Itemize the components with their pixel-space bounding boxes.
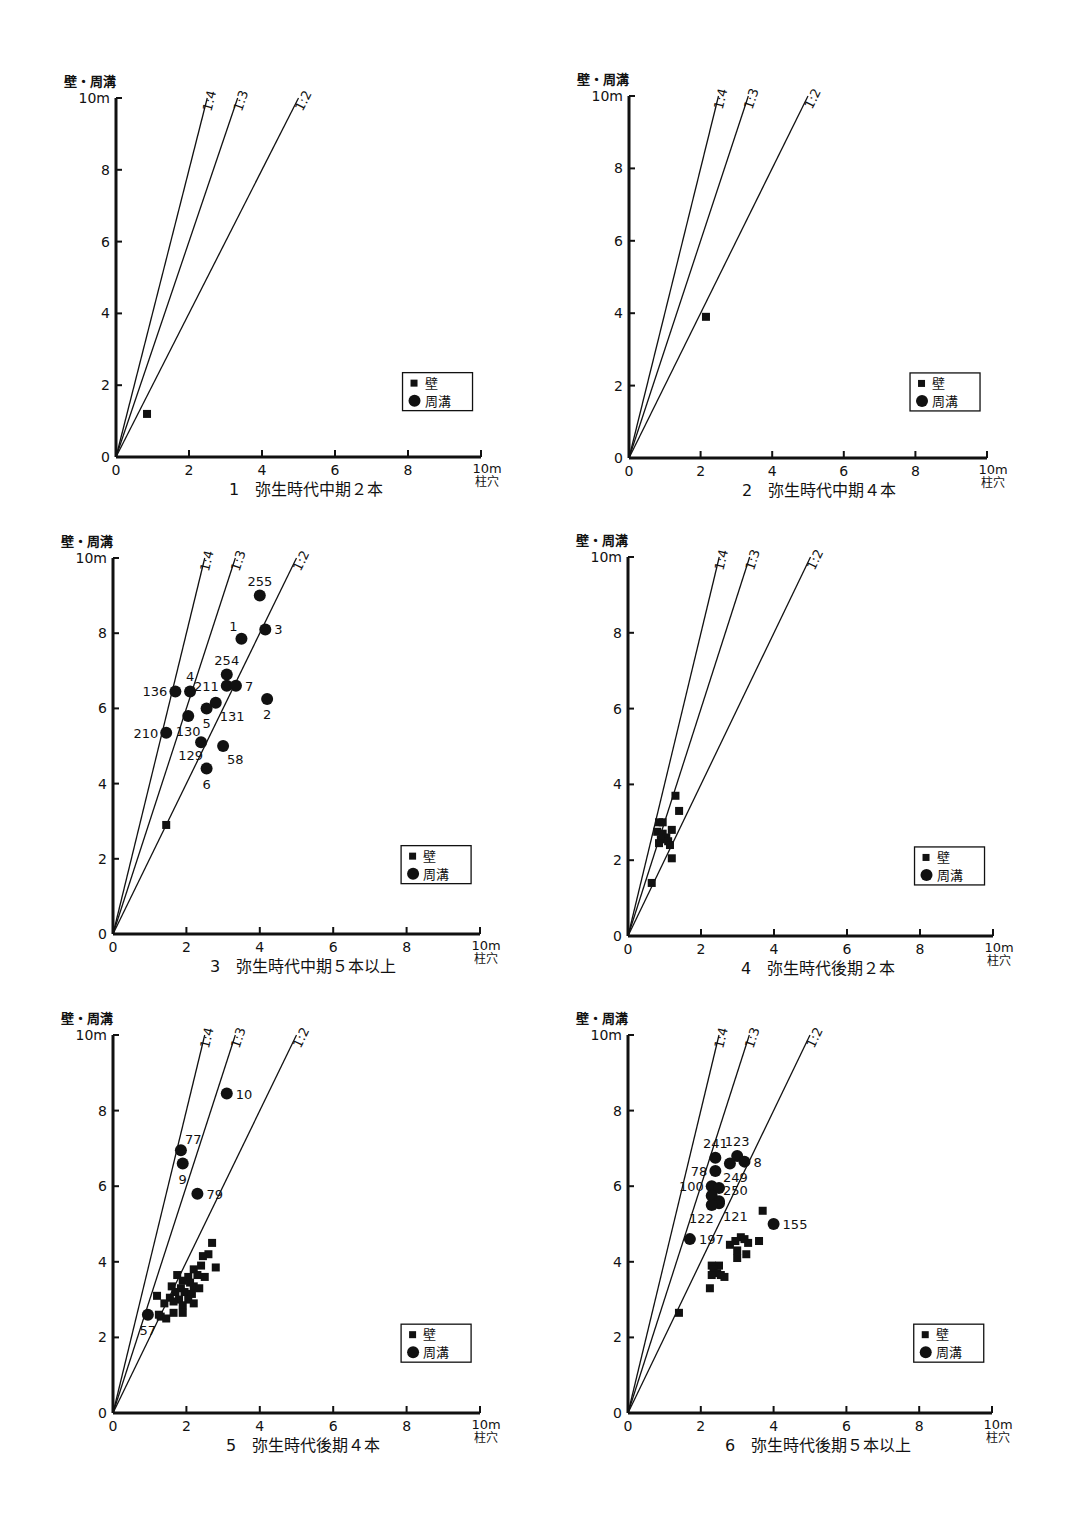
legend-label-wall: 壁 [425,376,438,391]
ratio-line-label: 1:3 [741,86,762,111]
x-tick-label: 0 [109,939,118,955]
x-tick-label: 10m [471,1417,500,1432]
trench-point-marker [217,740,229,752]
y-tick-label: 8 [101,162,110,178]
y-tick-label: 8 [614,160,623,176]
ratio-line-label: 1:2 [290,1025,313,1050]
x-tick-label: 2 [185,462,194,478]
ratio-line-label: 1:2 [801,86,824,111]
x-tick-label: 8 [402,1418,411,1434]
y-tick-label: 0 [613,1405,622,1421]
ratio-line-label: 1:2 [804,547,827,572]
ratio-line [113,558,205,934]
legend-square-icon [923,854,930,861]
legend-square-icon [918,380,925,387]
x-tick-label: 4 [255,1418,264,1434]
wall-point-marker [162,1315,170,1323]
x-tick-label: 4 [255,939,264,955]
x-tick-label: 2 [696,1418,705,1434]
trench-point-marker [724,1158,736,1170]
y-tick-label: 4 [614,305,623,321]
wall-point-marker [170,1297,178,1305]
trench-point-marker [706,1199,718,1211]
chart-caption: 2 弥生時代中期４本 [742,481,896,500]
point-label: 254 [214,653,239,668]
chart-panel-6: 壁・周溝246810m00246810m柱穴1:41:31:2241123878… [576,1011,1013,1455]
legend-label-trench: 周溝 [425,394,451,409]
x-axis-title: 柱穴 [987,953,1011,968]
point-label: 6 [202,777,210,792]
trench-point-marker [221,669,233,681]
x-tick-label: 6 [331,462,340,478]
y-tick-label: 0 [613,928,622,944]
x-axis-title: 柱穴 [474,951,498,966]
y-tick-label: 6 [613,701,622,717]
trench-point-marker [201,702,213,714]
legend-label-wall: 壁 [423,1327,436,1342]
x-tick-label: 4 [258,462,267,478]
y-tick-label: 6 [98,1178,107,1194]
trench-point-marker [221,1088,233,1100]
legend-circle-icon [916,395,928,407]
ratio-line [629,96,808,458]
trench-point-marker [201,763,213,775]
point-label: 2 [263,707,271,722]
trench-point-marker [709,1165,721,1177]
wall-point-marker [160,1299,168,1307]
wall-point-marker [744,1239,752,1247]
figure-canvas: 壁・周溝246810m00246810m柱穴1:41:31:2壁周溝1 弥生時代… [0,0,1071,1538]
y-tick-label: 4 [613,1254,622,1270]
legend-circle-icon [407,1346,419,1358]
point-label: 7 [245,679,253,694]
x-tick-label: 0 [624,941,633,957]
y-tick-label: 8 [613,625,622,641]
wall-point-marker [742,1250,750,1258]
ratio-line-label: 1:4 [711,87,731,111]
legend-circle-icon [921,869,933,881]
wall-point-marker [668,854,676,862]
wall-point-marker [675,807,683,815]
point-label: 3 [274,622,282,637]
y-axis-title: 壁・周溝 [61,534,113,549]
wall-point-marker [193,1271,201,1279]
x-tick-label: 8 [915,1418,924,1434]
ratio-line-label: 1:3 [230,88,251,113]
x-tick-label: 6 [839,463,848,479]
x-tick-label: 10m [984,940,1013,955]
point-label: 57 [140,1323,157,1338]
wall-point-marker [212,1263,220,1271]
legend-label-trench: 周溝 [932,394,958,409]
chart-caption: 1 弥生時代中期２本 [229,480,383,499]
y-tick-label: 10m [591,1027,622,1043]
wall-point-marker [706,1284,714,1292]
x-tick-label: 0 [624,1418,633,1434]
y-tick-label: 0 [98,1405,107,1421]
ratio-line-label: 1:2 [803,1025,826,1050]
point-label: 122 [689,1211,714,1226]
legend-label-trench: 周溝 [423,1345,449,1360]
ratio-line [113,1035,235,1413]
trench-point-marker [230,680,242,692]
y-tick-label: 4 [613,776,622,792]
point-label: 211 [194,679,219,694]
ratio-line [629,96,719,458]
wall-point-marker [170,1309,178,1317]
ratio-line-label: 1:3 [742,1025,763,1050]
trench-point-marker [184,685,196,697]
wall-point-marker [708,1271,716,1279]
point-label: 100 [679,1179,704,1194]
x-axis-title: 柱穴 [474,1430,498,1445]
y-tick-label: 2 [101,377,110,393]
x-tick-label: 6 [329,1418,338,1434]
legend-square-icon [922,1331,929,1338]
y-axis-title: 壁・周溝 [61,1011,113,1026]
point-label: 77 [185,1132,202,1147]
wall-point-marker [199,1252,207,1260]
legend-label-wall: 壁 [937,850,950,865]
wall-point-marker [179,1301,187,1309]
wall-point-marker [143,410,151,418]
legend-label-wall: 壁 [936,1327,949,1342]
y-tick-label: 8 [613,1103,622,1119]
point-label: 10 [236,1087,253,1102]
y-tick-label: 2 [614,378,623,394]
